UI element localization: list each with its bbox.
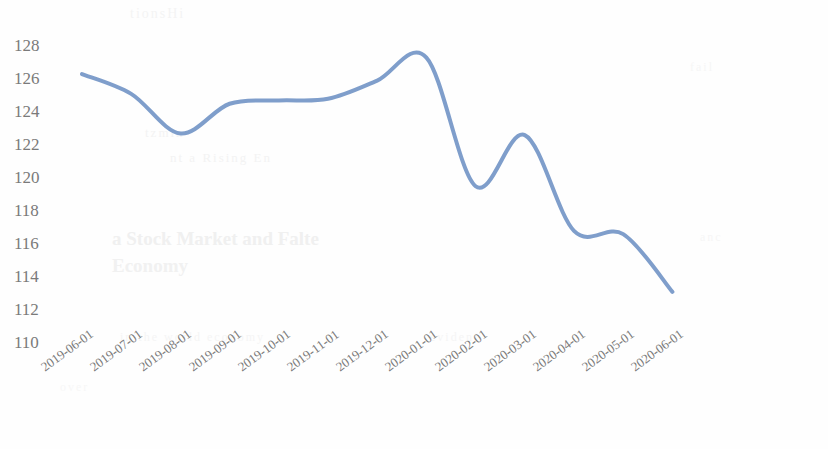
plot-area xyxy=(0,0,828,449)
line-chart: tionsHi tzmin nt a Rising En a Stock Mar… xyxy=(0,0,828,449)
series-line xyxy=(82,53,672,292)
